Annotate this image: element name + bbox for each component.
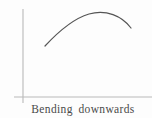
bending-downwards-figure: Bending downwards [0,0,152,118]
plot-area [0,0,152,118]
